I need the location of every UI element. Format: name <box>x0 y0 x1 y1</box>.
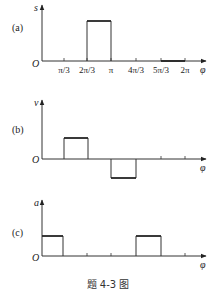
panel-a: s (a) O φ π/3 2π/3 π 4π/3 5π/3 2π <box>12 2 206 75</box>
panel-b: v (b) O φ <box>12 97 206 178</box>
tick-4pi-3: 4π/3 <box>128 65 145 75</box>
panel-c: a (c) O φ <box>12 197 206 270</box>
xlabel-b: φ <box>200 162 206 173</box>
xlabel-a: φ <box>200 64 206 75</box>
ylabel-b: v <box>34 97 39 108</box>
xlabel-c: φ <box>200 259 206 270</box>
panel-tag-a: (a) <box>12 22 23 34</box>
tick-pi: π <box>109 65 114 75</box>
curve-a-second <box>136 236 161 256</box>
curve-s <box>87 21 111 61</box>
origin-b: O <box>32 154 39 165</box>
tick-pi-3: π/3 <box>58 65 70 75</box>
tick-2pi: 2π <box>180 65 190 75</box>
curve-a-first <box>42 236 63 256</box>
origin-a: O <box>32 58 39 69</box>
panel-tag-b: (b) <box>12 124 24 136</box>
figure-caption: 题 4-3 图 <box>0 276 216 291</box>
curve-v-positive <box>64 138 88 159</box>
origin-c: O <box>32 252 39 263</box>
tick-5pi-3: 5π/3 <box>153 65 170 75</box>
figure: s (a) O φ π/3 2π/3 π 4π/3 5π/3 2π v (b) … <box>0 0 216 297</box>
ylabel-a: s <box>34 2 38 13</box>
panel-tag-c: (c) <box>12 227 23 239</box>
ylabel-c: a <box>34 197 39 208</box>
tick-2pi-3: 2π/3 <box>79 65 96 75</box>
curve-v-negative <box>111 159 136 178</box>
